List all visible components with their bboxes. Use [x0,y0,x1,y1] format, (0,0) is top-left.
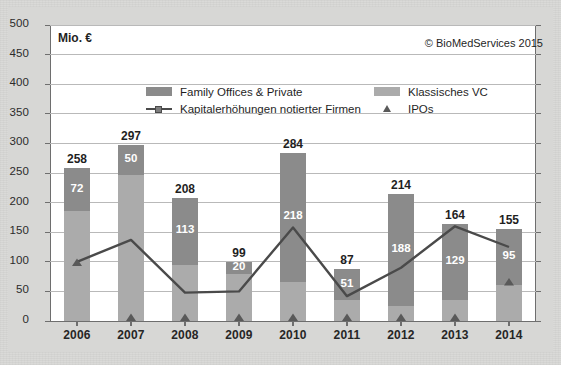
axis-tick [45,25,50,26]
swatch-light-icon [374,87,400,96]
bar-total-label: 155 [479,213,539,227]
x-axis-tick [76,321,77,326]
bar-segment-value-label: 51 [327,277,367,289]
axis-tick [45,261,50,262]
bar-segment-klassisches-vc[interactable] [226,274,252,321]
line-marker-icon [146,104,172,113]
bar-total-label: 214 [371,178,431,192]
axis-tick [45,113,50,114]
chart-legend: Family Offices & Private Klassisches VC … [146,83,506,117]
bar-total-label: 208 [155,182,215,196]
axis-tick [536,143,541,144]
x-axis-label-2010: 2010 [265,328,321,342]
bar-segment-klassisches-vc[interactable] [280,282,306,321]
bar-segment-klassisches-vc[interactable] [442,300,468,321]
x-axis-label-2009: 2009 [211,328,267,342]
axis-tick [536,202,541,203]
axis-tick [536,84,541,85]
bar-2010[interactable] [280,153,306,321]
bar-total-label: 99 [209,246,269,260]
x-axis-tick [508,321,509,326]
gridline [50,54,536,55]
gridline [50,25,536,26]
bar-segment-value-label: 72 [57,182,97,194]
copyright-notice: © BioMedServices 2015 [425,37,543,49]
bar-total-label: 258 [47,152,107,166]
bar-total-label: 87 [317,253,377,267]
bar-segment-value-label: 20 [219,260,259,272]
y-axis-tick-label: 350 [0,106,29,118]
axis-tick [536,232,541,233]
bar-segment-value-label: 218 [273,209,313,221]
bar-segment-klassisches-vc[interactable] [118,175,144,321]
gridline [50,84,536,85]
y-axis-tick-label: 250 [0,165,29,177]
legend-label-klassisches-vc: Klassisches VC [408,86,488,98]
x-axis-tick [292,321,293,326]
y-axis-tick-label: 0 [0,313,29,325]
axis-tick [536,54,541,55]
x-axis-label-2013: 2013 [427,328,483,342]
bar-segment-value-label: 113 [165,223,205,235]
axis-tick [45,54,50,55]
bar-segment-klassisches-vc[interactable] [172,265,198,321]
axis-tick [45,321,50,322]
bar-2012[interactable] [388,194,414,321]
axis-tick [45,143,50,144]
bar-2014[interactable] [496,229,522,321]
legend-item-family-offices: Family Offices & Private [146,86,374,98]
x-axis-label-2011: 2011 [319,328,375,342]
y-axis-tick-label: 450 [0,47,29,59]
bar-segment-value-label: 95 [489,249,529,261]
x-axis-tick [130,321,131,326]
bar-segment-klassisches-vc[interactable] [496,285,522,321]
y-axis-tick-label: 300 [0,135,29,147]
chart-screenshot: Mio. € © BioMedServices 2015 Family Offi… [0,0,561,365]
y-axis-tick-label: 400 [0,76,29,88]
axis-tick [536,321,541,322]
bar-segment-klassisches-vc[interactable] [334,300,360,321]
bar-total-label: 297 [101,129,161,143]
y-axis-tick-label: 150 [0,224,29,236]
bar-total-label: 284 [263,137,323,151]
x-axis-tick [184,321,185,326]
y-axis-tick-label: 100 [0,254,29,266]
legend-label-family-offices: Family Offices & Private [180,86,303,98]
y-axis-tick-label: 500 [0,17,29,29]
axis-tick [45,202,50,203]
swatch-dark-icon [146,87,172,96]
chart-frame: Mio. € © BioMedServices 2015 Family Offi… [8,7,553,352]
x-axis-tick [238,321,239,326]
legend-item-klassisches-vc: Klassisches VC [374,86,488,98]
bar-segment-value-label: 129 [435,254,475,266]
bar-2007[interactable] [118,145,144,321]
x-axis-label-2006: 2006 [49,328,105,342]
axis-tick [536,25,541,26]
axis-tick [536,113,541,114]
gridline [50,113,536,114]
bar-segment-klassisches-vc[interactable] [64,211,90,321]
axis-tick [45,232,50,233]
bar-segment-value-label: 50 [111,152,151,164]
y-axis-unit-label: Mio. € [58,31,92,45]
bar-2008[interactable] [172,198,198,321]
bar-2013[interactable] [442,224,468,321]
bar-segment-value-label: 188 [381,242,421,254]
legend-row-1: Family Offices & Private Klassisches VC [146,83,506,100]
y-axis-tick-label: 50 [0,283,29,295]
triangle-marker-icon [374,104,400,113]
axis-tick [536,261,541,262]
x-axis-label-2012: 2012 [373,328,429,342]
axis-tick [45,173,50,174]
x-axis-tick [454,321,455,326]
x-axis-tick [346,321,347,326]
axis-tick [536,173,541,174]
axis-tick [45,84,50,85]
axis-tick [536,291,541,292]
x-axis-label-2007: 2007 [103,328,159,342]
x-axis-label-2008: 2008 [157,328,213,342]
bar-total-label: 164 [425,208,485,222]
bar-segment-klassisches-vc[interactable] [388,306,414,321]
y-axis-tick-label: 200 [0,195,29,207]
legend-row-2: Kapitalerhöhungen notierter Firmen IPOs [146,100,506,117]
